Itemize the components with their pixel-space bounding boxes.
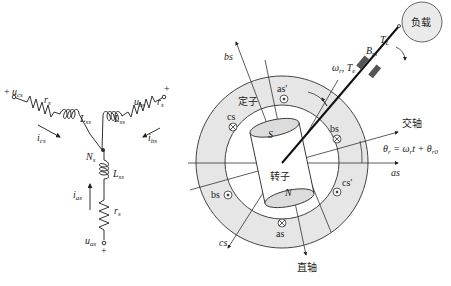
q-axis-label: 交轴 xyxy=(402,117,422,129)
speed-torque-label: ωr, Te xyxy=(332,62,355,75)
stator-label: 定子 xyxy=(238,95,258,107)
north-pole-label: N xyxy=(284,187,293,198)
south-pole-label: S xyxy=(268,129,273,140)
label-r-cs: rs xyxy=(44,94,51,107)
label-cs: cs xyxy=(227,111,235,122)
load-label: 负载 xyxy=(411,16,431,28)
label-cs-prime: cs′ xyxy=(342,177,353,188)
axis-label-as: as xyxy=(391,167,400,178)
label-i-as: ias xyxy=(73,189,82,202)
label-L-cs: Lss xyxy=(79,113,91,126)
label-L-as: Lss xyxy=(112,168,124,181)
label-r-as: rs xyxy=(114,205,121,218)
label-as: as xyxy=(276,228,284,239)
rotor-label: 转子 xyxy=(270,170,290,182)
terminal-bs xyxy=(162,95,166,99)
label-as-prime: as′ xyxy=(277,83,288,94)
label-i-cs: ics xyxy=(37,132,46,145)
load-torque-arc xyxy=(396,47,405,60)
axis-label-cs: cs xyxy=(219,237,227,248)
polarity-bs: + xyxy=(164,83,170,94)
label-bs-right: bs xyxy=(330,123,339,134)
angle-equation: θr = ωrt + θr0 xyxy=(383,143,438,156)
label-neutral: Ns xyxy=(85,151,96,164)
neutral-node xyxy=(101,148,104,151)
label-bs-left: bs xyxy=(211,189,220,200)
axis-label-bs: bs xyxy=(224,51,233,62)
load-shaft-end xyxy=(398,25,401,28)
label-u-bs: ubs xyxy=(134,96,146,109)
polarity-cs: + xyxy=(4,86,10,97)
label-i-bs: ibs xyxy=(148,132,157,145)
phase-a-branch xyxy=(99,150,109,245)
inductor-as xyxy=(100,150,109,192)
current-arrow-bs xyxy=(143,128,160,137)
damping-label: Bm xyxy=(366,45,377,58)
resistor-as xyxy=(99,192,109,240)
current-arrow-cs xyxy=(38,125,60,137)
bearing-lower xyxy=(368,64,381,78)
label-u-as: uas xyxy=(85,235,97,248)
d-axis-label: 直轴 xyxy=(297,261,317,273)
resistor-cs xyxy=(16,96,60,117)
polarity-as: + xyxy=(101,245,107,256)
